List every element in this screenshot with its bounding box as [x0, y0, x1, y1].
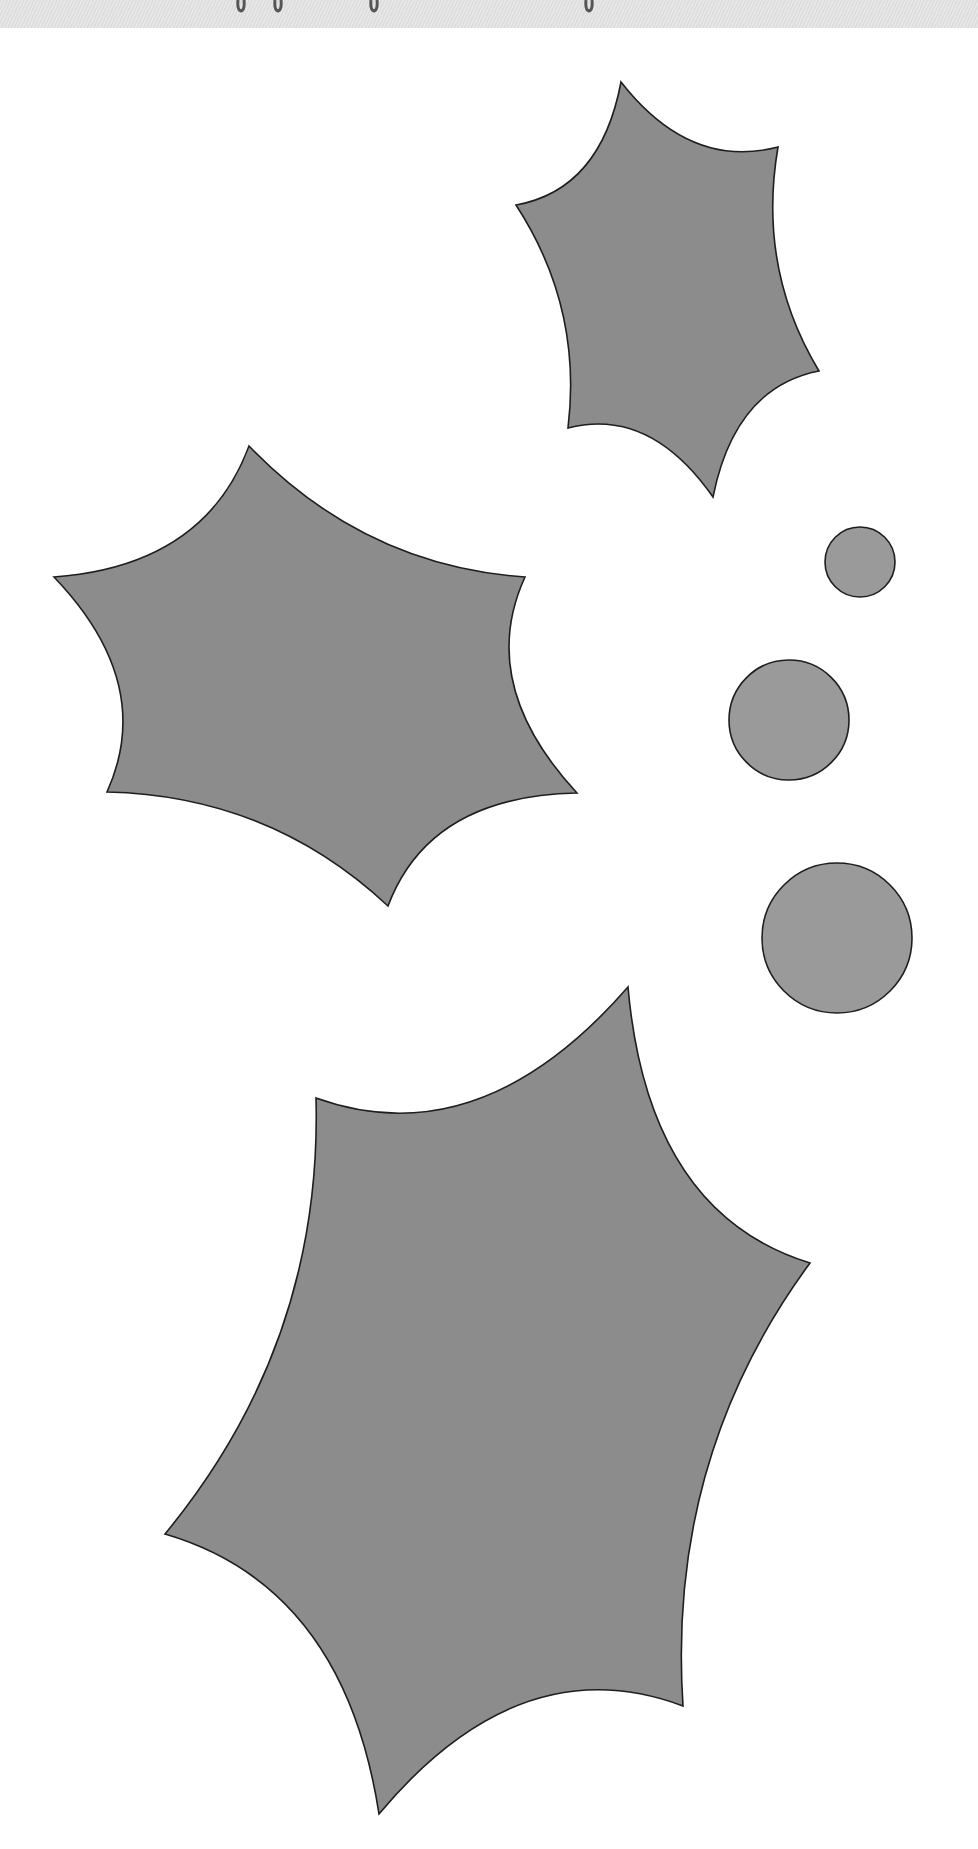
left-leaf: [54, 446, 577, 906]
medium-berry: [729, 660, 849, 780]
bottom-leaf: [165, 987, 810, 1814]
top-right-leaf: [516, 82, 819, 497]
holly-template-artwork: [0, 0, 978, 1849]
small-berry: [825, 527, 895, 597]
large-berry: [762, 863, 912, 1013]
